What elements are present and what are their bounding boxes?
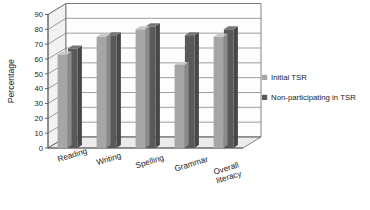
- bar-side: [233, 26, 238, 148]
- x-axis-label-group: Overallliteracy: [212, 160, 243, 185]
- x-axis-label-group: Grammar: [173, 155, 209, 174]
- y-tick-label: 30: [35, 99, 43, 108]
- bar-grammar-initial-tsr: [175, 62, 189, 148]
- bar-reading-initial-tsr: [58, 52, 72, 148]
- y-axis-title: Percentage: [6, 59, 16, 103]
- x-axis-label-group: Spelling: [134, 153, 165, 170]
- legend-swatch: [262, 95, 267, 100]
- y-tick-label: 20: [35, 114, 43, 123]
- legend-swatch: [262, 75, 267, 80]
- bar-front: [136, 29, 146, 148]
- bar-side: [77, 46, 82, 148]
- bar-side: [106, 34, 111, 148]
- bar-side: [145, 26, 150, 148]
- bar-side: [116, 32, 121, 148]
- x-axis-label-group: Writing: [95, 151, 122, 167]
- y-tick-label: 90: [35, 10, 43, 19]
- x-axis-label-group: Reading: [56, 146, 88, 164]
- x-axis-label: Spelling: [134, 153, 165, 170]
- y-tick-label: 10: [35, 129, 43, 138]
- bar-chart: 0102030405060708090ReadingWritingSpellin…: [0, 0, 370, 210]
- legend-label: Initial TSR: [271, 73, 307, 82]
- y-tick-label: 40: [35, 84, 43, 93]
- legend-label: Non-participating in TSR: [271, 93, 356, 102]
- bar-front: [58, 55, 68, 148]
- bar-front: [214, 37, 224, 148]
- bar-side: [194, 32, 199, 148]
- bar-side: [184, 62, 189, 148]
- x-axis-label: Writing: [95, 151, 122, 167]
- y-tick-label: 50: [35, 70, 43, 79]
- x-axis-label: Grammar: [173, 155, 209, 174]
- y-tick-label: 80: [35, 25, 43, 34]
- bar-front: [175, 65, 185, 148]
- y-tick-label: 0: [39, 144, 43, 153]
- bar-side: [155, 23, 160, 148]
- bar-side: [223, 34, 228, 148]
- bar-front: [97, 37, 107, 148]
- bar-writing-initial-tsr: [97, 34, 111, 148]
- x-axis-label: Reading: [56, 146, 88, 164]
- y-tick-label: 70: [35, 40, 43, 49]
- bar-spelling-initial-tsr: [136, 26, 150, 148]
- chart-canvas: 0102030405060708090ReadingWritingSpellin…: [0, 0, 370, 210]
- bar-overall-literacy-initial-tsr: [214, 34, 228, 148]
- y-tick-label: 60: [35, 55, 43, 64]
- bar-side: [67, 52, 72, 148]
